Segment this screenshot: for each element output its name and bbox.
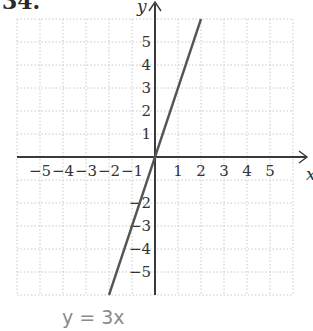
x-tick-label: −5 [29, 162, 51, 180]
y-tick-label: 2 [141, 102, 151, 120]
y-tick-label: 3 [141, 79, 151, 97]
coordinate-graph: xy −5−4−3−2−11234554321−2−3−4−5 [0, 0, 313, 300]
caption-text: y = 3x [62, 306, 125, 328]
y-axis-label: y [136, 0, 147, 16]
y-tick-label: −5 [129, 263, 151, 281]
y-tick-label: 5 [141, 33, 151, 51]
x-tick-label: 2 [196, 162, 206, 180]
x-axis-label: x [306, 164, 313, 184]
x-tick-label: −2 [98, 162, 120, 180]
x-tick-label: −4 [52, 162, 74, 180]
y-tick-label: 4 [141, 56, 151, 74]
x-tick-label: 4 [242, 162, 252, 180]
x-tick-label: 3 [219, 162, 229, 180]
x-tick-label: 5 [265, 162, 275, 180]
y-tick-label: 1 [141, 125, 151, 143]
x-tick-label: −3 [75, 162, 97, 180]
y-tick-label: −4 [129, 240, 151, 258]
x-tick-label: 1 [173, 162, 183, 180]
x-tick-label: −1 [121, 162, 143, 180]
equation-caption: y = 3x [62, 306, 125, 328]
axes: xy [17, 0, 313, 295]
